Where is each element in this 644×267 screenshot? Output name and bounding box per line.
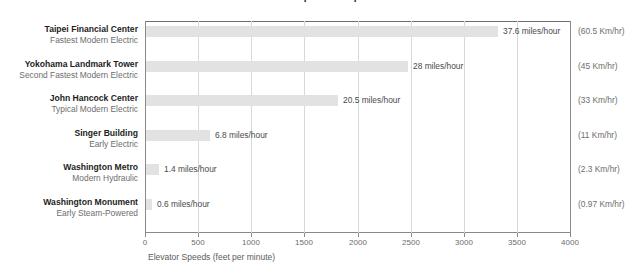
x-tick-label: 1000 <box>242 238 260 247</box>
x-tick <box>517 233 518 237</box>
row-label-group: Yokohama Landmark TowerSecond Fastest Mo… <box>0 59 138 81</box>
bar-value-label: 37.6 miles/hour <box>503 26 560 37</box>
x-tick-label: 0 <box>143 238 147 247</box>
bar <box>146 130 210 141</box>
row-label-group: John Hancock CenterTypical Modern Electr… <box>0 93 138 115</box>
bar-value-label: 6.8 miles/hour <box>215 130 268 141</box>
row-label-group: Singer BuildingEarly Electric <box>0 128 138 150</box>
x-tick-label: 4000 <box>561 238 579 247</box>
bar-value-label: 20.5 miles/hour <box>343 95 400 106</box>
row-name: Yokohama Landmark Tower <box>0 59 138 70</box>
x-tick-label: 1500 <box>295 238 313 247</box>
x-tick <box>304 233 305 237</box>
bar-value-label: 0.6 miles/hour <box>157 199 210 210</box>
x-tick <box>251 233 252 237</box>
row-name: Taipei Financial Center <box>0 24 138 35</box>
row-label-group: Taipei Financial CenterFastest Modern El… <box>0 24 138 46</box>
bar <box>146 164 159 175</box>
x-tick-label: 3000 <box>455 238 473 247</box>
row-name: Washington Metro <box>0 162 138 173</box>
x-tick-label: 2500 <box>402 238 420 247</box>
bar-value-label: 28 miles/hour <box>413 61 463 72</box>
row-descriptor: Modern Hydraulic <box>0 173 138 184</box>
bar <box>146 199 152 210</box>
metric-conversion-label: (45 Km/hr) <box>578 61 618 72</box>
row-descriptor: Fastest Modern Electric <box>0 35 138 46</box>
x-tick <box>358 233 359 237</box>
metric-conversion-label: (2.3 Km/hr) <box>578 164 620 175</box>
bar-row: Singer BuildingEarly Electric6.8 miles/h… <box>0 128 644 162</box>
metric-conversion-label: (33 Km/hr) <box>578 95 618 106</box>
x-tick <box>570 233 571 237</box>
x-tick-label: 3500 <box>508 238 526 247</box>
row-descriptor: Early Steam-Powered <box>0 208 138 219</box>
metric-conversion-label: (60.5 Km/hr) <box>578 26 625 37</box>
x-tick-label: 2000 <box>349 238 367 247</box>
x-tick-label: 500 <box>191 238 204 247</box>
bar-row: John Hancock CenterTypical Modern Electr… <box>0 93 644 127</box>
x-tick <box>411 233 412 237</box>
row-descriptor: Second Fastest Modern Electric <box>0 70 138 81</box>
row-name: Washington Monument <box>0 197 138 208</box>
row-name: Singer Building <box>0 128 138 139</box>
bar <box>146 95 338 106</box>
elevator-speed-bar-chart: Elevator Speed Comparison 05001000150020… <box>0 0 644 267</box>
bar <box>146 26 498 37</box>
bar-row: Yokohama Landmark TowerSecond Fastest Mo… <box>0 59 644 93</box>
metric-conversion-label: (0.97 Km/hr) <box>578 199 625 210</box>
row-descriptor: Early Electric <box>0 139 138 150</box>
metric-conversion-label: (11 Km/hr) <box>578 130 617 141</box>
x-tick <box>464 233 465 237</box>
row-label-group: Washington MonumentEarly Steam-Powered <box>0 197 138 219</box>
bar-row: Taipei Financial CenterFastest Modern El… <box>0 24 644 58</box>
row-name: John Hancock Center <box>0 93 138 104</box>
x-tick <box>198 233 199 237</box>
row-label-group: Washington MetroModern Hydraulic <box>0 162 138 184</box>
bar-row: Washington MonumentEarly Steam-Powered0.… <box>0 197 644 231</box>
bar-value-label: 1.4 miles/hour <box>164 164 217 175</box>
x-tick <box>145 233 146 237</box>
x-axis-caption: Elevator Speeds (feet per minute) <box>148 252 275 262</box>
bar-row: Washington MetroModern Hydraulic1.4 mile… <box>0 162 644 196</box>
bar <box>146 61 408 72</box>
chart-title: Elevator Speed Comparison <box>0 0 644 2</box>
row-descriptor: Typical Modern Electric <box>0 104 138 115</box>
